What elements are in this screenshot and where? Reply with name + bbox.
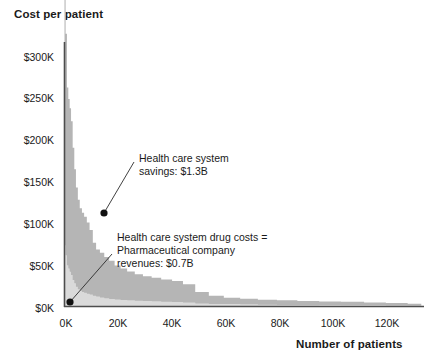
- chart-figure: Cost per patient $300K $250K $200K $150K…: [0, 0, 430, 362]
- annotation-marker-dot-2: [66, 298, 73, 305]
- annotation-leader-line-1: [104, 162, 134, 213]
- annotation-marker-dot-1: [100, 209, 107, 216]
- x-axis-title: Number of patients: [296, 338, 403, 350]
- plot-area: [0, 0, 430, 362]
- savings-annotation-text: Health care system savings: $1.3B: [139, 152, 229, 178]
- drug-costs-annotation-text: Health care system drug costs = Pharmace…: [117, 231, 267, 271]
